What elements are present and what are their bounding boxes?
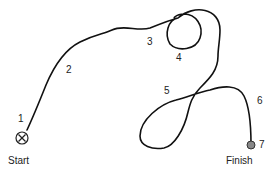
waypoint-label-5: 5 [164,85,170,96]
start-marker [16,132,28,144]
waypoint-label-1: 1 [18,113,24,124]
waypoint-label-7: 7 [259,139,265,150]
finish-label: Finish [226,155,253,166]
route-diagram: Start Finish 1 2 3 4 5 6 7 [0,0,276,174]
waypoint-label-3: 3 [147,36,153,47]
waypoint-label-2: 2 [66,64,72,75]
filled-circle-icon [247,141,255,149]
route-path [27,10,251,149]
waypoint-label-6: 6 [257,95,263,106]
finish-marker [247,141,255,149]
waypoint-label-4: 4 [176,52,182,63]
start-label: Start [8,155,29,166]
